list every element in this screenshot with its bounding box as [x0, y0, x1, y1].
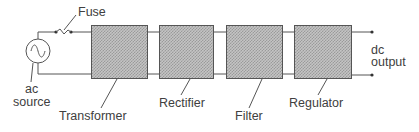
- output-terminal-positive: [370, 30, 373, 33]
- power-supply-diagram: Fuse ac source Transformer Rectifier Fil…: [0, 0, 419, 132]
- rectifier-block: [159, 25, 214, 79]
- transformer-label: Transformer: [59, 110, 127, 123]
- source-label-source: source: [13, 96, 51, 109]
- transformer-block: [91, 25, 148, 79]
- regulator-block: [294, 25, 352, 79]
- filter-block: [226, 25, 283, 79]
- output-terminal-negative: [370, 73, 373, 76]
- output-label-output: output: [371, 56, 406, 69]
- regulator-label: Regulator: [289, 97, 343, 110]
- fuse-icon: [54, 29, 72, 34]
- fuse-label: Fuse: [78, 6, 106, 19]
- filter-label: Filter: [235, 110, 263, 123]
- ac-source-icon: [26, 39, 50, 63]
- rectifier-label: Rectifier: [159, 97, 205, 110]
